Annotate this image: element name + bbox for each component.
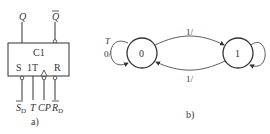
state-0-label: 0 xyxy=(139,48,144,59)
transition-0-to-1-label: 1/ xyxy=(186,27,194,37)
t-flipflop-symbol: Q Q C1 S 1T R SD T CP RD a) xyxy=(8,11,69,128)
self-loop-0-label-t: T xyxy=(105,36,111,46)
transition-0-to-1 xyxy=(155,36,224,45)
clock-label-c1: C1 xyxy=(33,47,45,58)
q-output-label: Q xyxy=(19,11,27,22)
s-input-label: S xyxy=(16,62,22,73)
transition-1-to-0 xyxy=(156,61,225,70)
caption-b: b) xyxy=(186,109,194,121)
rd-pin-label: RD xyxy=(51,102,63,115)
self-loop-0-label: 0/ xyxy=(104,49,112,59)
state-diagram: T 0/ 0 1 1/ 1/ b) xyxy=(104,27,265,121)
r-input-label: R xyxy=(54,62,61,73)
t-pin-label: T xyxy=(30,102,37,113)
caption-a: a) xyxy=(31,116,39,128)
transition-1-to-0-label: 1/ xyxy=(186,74,194,84)
cp-pin-label: CP xyxy=(38,102,51,113)
sd-pin-label: SD xyxy=(16,102,26,115)
t-input-label: 1T xyxy=(27,62,38,73)
state-1-label: 1 xyxy=(235,48,240,59)
q-bar-output-label: Q xyxy=(52,11,60,22)
